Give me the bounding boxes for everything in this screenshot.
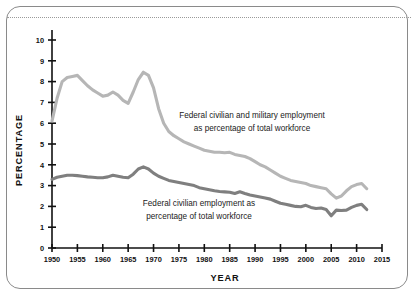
x-tick-label: 2000: [298, 255, 314, 264]
x-tick-label: 1975: [171, 255, 187, 264]
x-tick-label: 1965: [120, 255, 136, 264]
series-group: [52, 72, 367, 216]
x-tick-label: 1955: [69, 255, 85, 264]
x-tick-label: 2015: [374, 255, 390, 264]
y-tick-label: 7: [40, 98, 44, 107]
x-axis-ticks: 1950195519601965197019751980198519901995…: [44, 244, 390, 264]
x-tick-label: 1985: [221, 255, 237, 264]
y-tick-label: 3: [40, 181, 44, 190]
y-axis-title: PERCENTAGE: [14, 114, 24, 186]
x-tick-label: 1970: [145, 255, 161, 264]
y-tick-label: 4: [40, 161, 45, 170]
lower-annotation-line2: percentage of total workforce: [146, 212, 252, 221]
lower-annotation-line1: Federal civilian employment as: [143, 199, 255, 208]
x-tick-label: 1995: [272, 255, 288, 264]
upper-annotation-line2: as percentage of total workforce: [194, 124, 311, 133]
y-tick-label: 5: [40, 140, 44, 149]
y-tick-label: 2: [40, 202, 44, 211]
y-axis-ticks: 012345678910: [36, 36, 56, 253]
chart-plot-area: 012345678910 195019551960196519701975198…: [0, 0, 420, 302]
y-tick-label: 6: [40, 119, 44, 128]
y-tick-label: 8: [40, 77, 44, 86]
y-tick-label: 1: [40, 223, 44, 232]
series-line-1: [52, 167, 367, 216]
x-tick-label: 1980: [196, 255, 212, 264]
y-tick-label: 9: [40, 57, 44, 66]
y-tick-label: 0: [40, 244, 44, 253]
x-tick-label: 2005: [323, 255, 339, 264]
y-tick-label: 10: [36, 36, 44, 45]
x-tick-label: 2010: [348, 255, 364, 264]
line-chart: 012345678910 195019551960196519701975198…: [0, 0, 420, 302]
upper-annotation-line1: Federal civilian and military employment: [179, 111, 325, 120]
x-tick-label: 1950: [44, 255, 60, 264]
x-tick-label: 1960: [95, 255, 111, 264]
x-tick-label: 1990: [247, 255, 263, 264]
x-axis-title: YEAR: [210, 273, 239, 283]
